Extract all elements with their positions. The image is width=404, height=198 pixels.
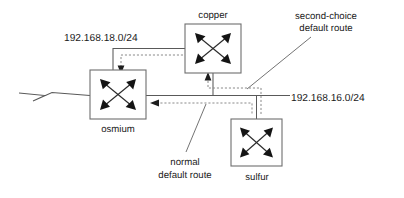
annotation-normal-default-route: normal default route: [158, 104, 211, 181]
annotation-leader-line: [247, 37, 311, 89]
router-label-sulfur: sulfur: [245, 172, 269, 183]
router-node-osmium[interactable]: osmium: [90, 70, 146, 135]
wan-zigzag-link-icon: [19, 93, 90, 102]
annotation-line: default route: [299, 23, 352, 34]
annotation-line: normal: [170, 157, 199, 168]
router-node-sulfur[interactable]: sulfur: [231, 119, 282, 183]
router-label-osmium: osmium: [101, 124, 135, 135]
diagram-canvas: copper osmium: [0, 0, 404, 198]
annotation-second-choice-default-route: second-choice default route: [247, 11, 357, 89]
network-label-192-168-16-0-24: 192.168.16.0/24: [291, 93, 365, 104]
router-label-copper: copper: [198, 10, 228, 21]
annotation-line: second-choice: [295, 11, 357, 22]
network-label-192-168-18-0-24: 192.168.18.0/24: [64, 33, 138, 44]
annotation-leader-line: [186, 104, 206, 152]
annotation-line: default route: [158, 170, 211, 181]
link-192-168-16-0-24: [146, 73, 290, 119]
network-diagram: copper osmium: [0, 0, 404, 198]
route-normal-default: [150, 99, 252, 113]
router-node-copper[interactable]: copper: [185, 10, 241, 73]
